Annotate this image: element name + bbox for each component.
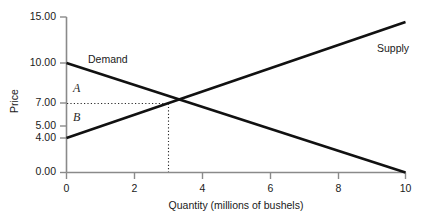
y-tick-label-10: 10.00 (14, 57, 56, 68)
y-axis-title: Price (9, 89, 20, 113)
x-tick-label-0: 0 (54, 183, 80, 194)
x-tick-label-6: 6 (258, 183, 284, 194)
x-tick-label-8: 8 (326, 183, 352, 194)
x-axis-title: Quantity (millions of bushels) (116, 200, 356, 211)
x-tick-label-2: 2 (122, 183, 148, 194)
y-tick-label-4: 4.00 (14, 132, 56, 143)
x-tick-label-10: 10 (393, 183, 419, 194)
x-tick-label-4: 4 (190, 183, 216, 194)
y-tick-label-15: 15.00 (14, 11, 56, 22)
y-tick-label-5: 5.00 (14, 120, 56, 131)
y-tick-label-7: 7.00 (14, 97, 56, 108)
supply-demand-chart: 15.00 10.00 7.00 5.00 4.00 0.00 0 2 4 6 … (0, 0, 426, 221)
demand-curve-label: Demand (88, 54, 128, 65)
region-label-b: B (73, 111, 80, 123)
supply-curve-label: Supply (377, 43, 409, 54)
y-tick-label-0: 0.00 (14, 166, 56, 177)
region-label-a: A (73, 82, 80, 94)
